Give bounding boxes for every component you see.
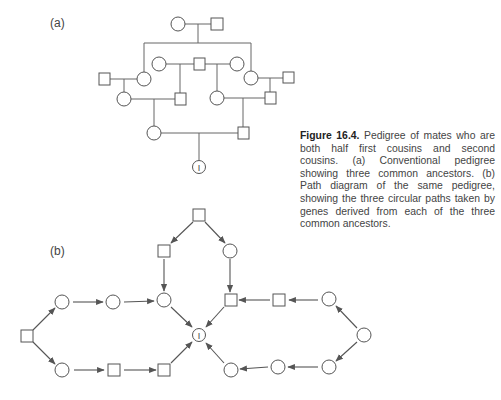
female-node: [271, 360, 285, 374]
pedigree-a-nodes: [99, 17, 294, 174]
male-node: [175, 93, 186, 105]
male-node: [211, 18, 223, 30]
female-node: [117, 92, 131, 106]
female-node: [171, 17, 185, 31]
female-node: [152, 57, 166, 71]
male-node: [99, 73, 110, 85]
female-node: [55, 295, 69, 309]
male-node: [158, 364, 170, 376]
female-node: [224, 363, 238, 377]
inbred-symbol-a: I: [198, 163, 201, 173]
female-node: [147, 126, 161, 140]
female-node: [244, 71, 258, 85]
female-node: [137, 72, 151, 86]
common-ancestor-male-node: [193, 209, 205, 221]
path-b-arrows: [33, 222, 357, 370]
male-node: [158, 245, 170, 257]
common-ancestor-male-node: [21, 330, 33, 342]
female-node: [322, 360, 336, 374]
common-ancestor-female-node: [357, 328, 371, 342]
male-node: [273, 294, 285, 306]
female-node: [230, 57, 244, 71]
female-node: [55, 363, 69, 377]
female-node: [322, 292, 336, 306]
male-node: [265, 92, 276, 104]
figure-caption: Figure 16.4. Pedigree of mates who are b…: [300, 130, 495, 231]
male-node: [194, 58, 205, 70]
pedigree-a-lines: [110, 24, 283, 160]
female-node: [210, 91, 224, 105]
male-node: [108, 364, 120, 376]
path-b-nodes: [21, 209, 371, 377]
inbred-symbol-b: I: [198, 331, 201, 341]
female-node: [223, 244, 237, 258]
male-node: [238, 127, 249, 139]
figure-caption-text: Pedigree of mates who are both half firs…: [300, 130, 495, 229]
male-node: [283, 72, 294, 83]
figure-number: Figure 16.4.: [300, 130, 359, 141]
male-node: [225, 294, 237, 306]
female-node: [106, 295, 120, 309]
female-node: [157, 293, 171, 307]
